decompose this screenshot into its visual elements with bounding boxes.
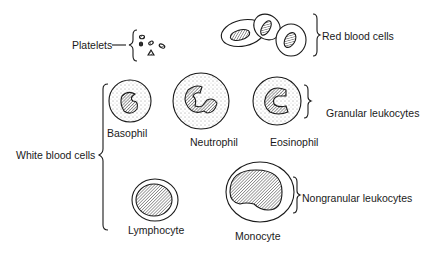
red-blood-cells-label: Red blood cells [322,31,394,42]
basophil-illustration [109,80,151,122]
basophil-label: Basophil [107,128,147,139]
white-blood-cells-label: White blood cells [16,150,95,161]
granular-leukocytes-label: Granular leukocytes [326,108,419,119]
neutrophil-label: Neutrophil [190,137,238,148]
platelets-illustration [112,30,165,61]
white-blood-cells-brace [99,84,108,230]
lymphocyte-illustration [132,179,178,221]
nongranular-leukocytes-label: Nongranular leukocytes [302,193,412,204]
monocyte-label: Monocyte [235,231,281,242]
red-blood-cells-illustration [219,9,320,56]
eosinophil-label: Eosinophil [270,137,318,148]
monocyte-illustration [226,162,300,222]
lymphocyte-label: Lymphocyte [128,225,184,236]
neutrophil-illustration [173,73,229,129]
platelets-label: Platelets [72,40,112,51]
eosinophil-illustration [253,77,311,125]
